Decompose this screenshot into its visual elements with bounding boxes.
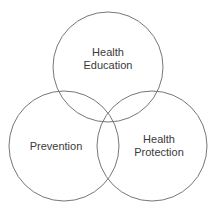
label-health-education: Health Education	[84, 46, 133, 72]
label-line: Protection	[134, 146, 184, 159]
label-line: Health	[134, 133, 184, 146]
label-health-protection: Health Protection	[134, 133, 184, 159]
label-prevention: Prevention	[30, 140, 83, 153]
venn-diagram	[0, 0, 217, 211]
label-line: Health	[84, 46, 133, 59]
label-line: Prevention	[30, 140, 83, 153]
label-line: Education	[84, 59, 133, 72]
